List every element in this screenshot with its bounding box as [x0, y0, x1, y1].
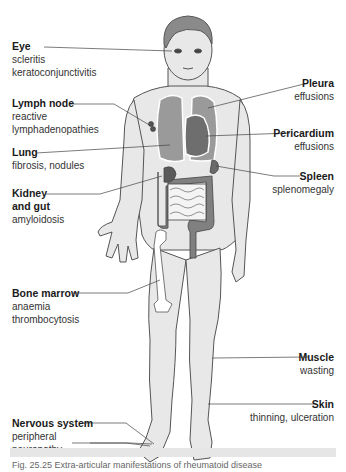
head: [164, 16, 212, 80]
caption-bar: [10, 448, 336, 457]
muscle-title: Muscle: [298, 351, 334, 364]
kidney-gut-title-1: Kidney: [12, 187, 64, 200]
lymph-node-detail-2: lymphadenopathies: [12, 123, 99, 136]
kidney-gut-title-2: and gut: [12, 200, 64, 213]
pleura-detail-1: effusions: [294, 90, 334, 103]
muscle-detail-1: wasting: [298, 364, 334, 377]
figure-caption: Fig. 25.25 Extra-articular manifestation…: [12, 460, 342, 472]
heart: [185, 115, 209, 157]
label-lymph-node: Lymph node reactive lymphadenopathies: [12, 97, 99, 136]
label-skin: Skin thinning, ulceration: [250, 398, 334, 424]
label-kidney-gut: Kidney and gut amyloidosis: [12, 187, 64, 226]
skin-detail-1: thinning, ulceration: [250, 411, 334, 424]
bone-marrow-title: Bone marrow: [12, 287, 79, 300]
pleura-title: Pleura: [294, 77, 334, 90]
label-eye: Eye scleritis keratoconjunctivitis: [12, 40, 96, 79]
pericardium-detail-1: effusions: [273, 140, 334, 153]
eye-detail-2: keratoconjunctivitis: [12, 66, 96, 79]
spleen-title: Spleen: [272, 170, 334, 183]
label-pericardium: Pericardium effusions: [273, 127, 334, 153]
lymph-node-detail-1: reactive: [12, 110, 99, 123]
nervous-system-title: Nervous system: [12, 417, 93, 430]
skin-title: Skin: [250, 398, 334, 411]
eye-title: Eye: [12, 40, 96, 53]
spleen-detail-1: splenomegaly: [272, 183, 334, 196]
bone-marrow-detail-1: anaemia: [12, 300, 79, 313]
pericardium-title: Pericardium: [273, 127, 334, 140]
label-spleen: Spleen splenomegaly: [272, 170, 334, 196]
label-lung: Lung fibrosis, nodules: [12, 146, 84, 172]
kidney-gut-detail-1: amyloidosis: [12, 213, 64, 226]
bone-marrow-detail-2: thrombocytosis: [12, 313, 79, 326]
lung-title: Lung: [12, 146, 84, 159]
label-bone-marrow: Bone marrow anaemia thrombocytosis: [12, 287, 79, 326]
label-pleura: Pleura effusions: [294, 77, 334, 103]
lung-detail-1: fibrosis, nodules: [12, 159, 84, 172]
nervous-system-detail-1: peripheral: [12, 430, 93, 443]
eye-detail-1: scleritis: [12, 53, 96, 66]
label-muscle: Muscle wasting: [298, 351, 334, 377]
lymph-node-title: Lymph node: [12, 97, 99, 110]
